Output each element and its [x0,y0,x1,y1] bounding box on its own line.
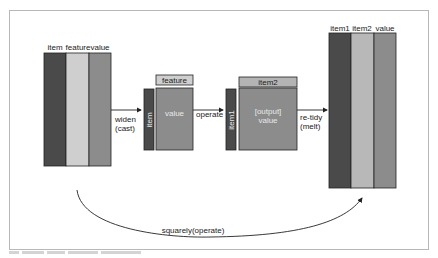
figure-caption-fragment [9,251,169,257]
operate-label: operate [196,110,224,119]
melt-label-line2: (melt) [300,122,321,131]
wide-row-strip-label: item [145,112,154,127]
pivot-diagram: item feature value widen (cast) item fea… [0,0,438,258]
wide-body-label: value [165,109,185,118]
output-row-strip-label: item1 [227,110,236,130]
input-col-value-header: value [90,43,110,52]
output-col-item2 [351,33,374,188]
wide-header-label: feature [162,76,187,85]
operate-arrow: operate [193,110,224,119]
output-table: item1 item2 value [329,24,396,188]
input-col-feature-header: feature [66,43,91,52]
caption-mark [47,251,65,254]
input-table: item feature value [44,43,111,166]
input-col-value [89,53,111,166]
cast-label-line1: widen [114,115,136,124]
caption-mark [22,251,44,254]
output-body-label-line2: value [258,116,278,125]
output-header-label: item2 [258,78,278,87]
output-col-item1-header: item1 [330,24,350,33]
output-matrix: item1 item2 [output] value [226,77,297,150]
input-col-item [44,53,66,166]
shortcut-label: squarely(operate) [162,226,225,235]
output-col-value [374,33,396,188]
caption-mark [9,251,19,254]
output-col-item1 [329,33,351,188]
melt-arrow: re-tidy (melt) [297,110,327,131]
output-col-value-header: value [375,24,395,33]
output-body-label-line1: [output] [255,107,282,116]
melt-label-line1: re-tidy [300,113,322,122]
output-col-item2-header: item2 [352,24,372,33]
wide-matrix: item feature value [144,75,193,150]
cast-arrow: widen (cast) [111,110,141,133]
input-col-feature [66,53,89,166]
input-col-item-header: item [47,43,62,52]
wide-body [156,88,193,150]
caption-mark [68,251,98,254]
shortcut-arrow: squarely(operate) [77,190,362,237]
cast-label-line2: (cast) [115,124,135,133]
caption-mark [101,251,141,254]
